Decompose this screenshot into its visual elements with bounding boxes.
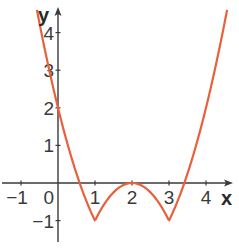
y-tick-label: 2	[43, 98, 54, 119]
tick-labels: −101234−11234	[6, 23, 212, 232]
y-tick-label: 1	[43, 135, 54, 156]
x-tick-label: −1	[6, 187, 28, 208]
x-tick-label: 1	[90, 187, 101, 208]
x-axis-label: x	[221, 187, 232, 209]
function-graph: −101234−11234 x y	[0, 0, 239, 251]
x-tick-label: 3	[164, 187, 175, 208]
y-axis-label: y	[38, 4, 50, 26]
x-tick-label: 2	[127, 187, 138, 208]
x-tick-label: 0	[43, 187, 54, 208]
x-tick-label: 4	[201, 187, 212, 208]
y-tick-label: −1	[32, 211, 54, 232]
axes	[2, 7, 233, 242]
